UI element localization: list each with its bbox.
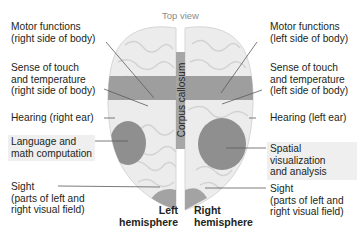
label-touch-left-body: Sense of touch and temperature (left sid… bbox=[270, 62, 348, 97]
right-hemisphere-label: Right hemisphere bbox=[194, 204, 253, 228]
brain-diagram: Top view bbox=[0, 0, 361, 236]
language-region bbox=[110, 121, 146, 165]
label-motor-right-body: Motor functions (right side of body) bbox=[11, 21, 95, 44]
spatial-region bbox=[198, 118, 246, 170]
label-sight-right: Sight (parts of left and right visual fi… bbox=[270, 183, 344, 218]
label-spatial-visualization: Spatial visualization and analysis bbox=[267, 142, 357, 180]
label-sight-left: Sight (parts of left and right visual fi… bbox=[11, 181, 85, 216]
sensory-band-right bbox=[180, 76, 260, 100]
left-hemisphere-label: Left hemisphere bbox=[118, 204, 178, 228]
corpus-callosum-label: Corpus callosum bbox=[175, 63, 186, 137]
left-hemisphere-shape bbox=[100, 27, 180, 210]
label-hearing-left-ear: Hearing (left ear) bbox=[270, 112, 346, 124]
label-hearing-right-ear: Hearing (right ear) bbox=[11, 112, 94, 124]
label-touch-right-body: Sense of touch and temperature (right si… bbox=[11, 62, 95, 97]
label-language-math: Language and math computation bbox=[8, 135, 95, 161]
sensory-band-left bbox=[100, 76, 180, 100]
label-motor-left-body: Motor functions (left side of body) bbox=[270, 21, 348, 44]
